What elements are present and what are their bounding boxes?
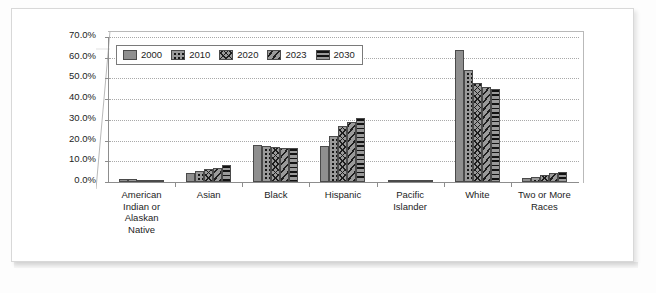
- x-axis-category-label-line: White: [445, 189, 510, 201]
- plot-right-border: [583, 31, 584, 183]
- legend-swatch-icon: [123, 50, 137, 60]
- bar[interactable]: [262, 146, 271, 182]
- bar[interactable]: [253, 145, 262, 182]
- x-axis-category-separator: [444, 182, 445, 187]
- x-axis-category-separator: [511, 182, 512, 187]
- legend-label: 2030: [334, 50, 355, 60]
- x-axis-category-label: Hispanic: [309, 189, 376, 235]
- bar[interactable]: [128, 179, 137, 182]
- legend-label: 2023: [285, 50, 306, 60]
- frame-shadow: [14, 262, 638, 268]
- x-axis-category-label-line: American: [109, 189, 174, 201]
- x-axis-category-label: AmericanIndian orAlaskanNative: [108, 189, 175, 235]
- legend-swatch-icon: [267, 50, 281, 60]
- x-axis-category-label-line: Races: [512, 201, 577, 213]
- bar-group: [377, 37, 444, 182]
- legend-item[interactable]: 2020: [219, 50, 258, 60]
- x-axis-category-label: Two or MoreRaces: [511, 189, 578, 235]
- y-axis-tick-label: 60.0%: [42, 51, 96, 61]
- page-root: 70.0%60.0%50.0%40.0%30.0%20.0%10.0%0.0% …: [0, 0, 656, 293]
- bar[interactable]: [406, 180, 415, 182]
- bar[interactable]: [356, 118, 365, 182]
- bar[interactable]: [320, 146, 329, 182]
- bar[interactable]: [464, 70, 473, 182]
- x-axis-category-separator: [309, 182, 310, 187]
- bar[interactable]: [397, 180, 406, 182]
- bar[interactable]: [280, 148, 289, 182]
- bar[interactable]: [119, 179, 128, 182]
- x-axis-category-label-line: Two or More: [512, 189, 577, 201]
- chart-frame: 70.0%60.0%50.0%40.0%30.0%20.0%10.0%0.0% …: [11, 8, 634, 262]
- bar[interactable]: [186, 173, 195, 182]
- x-axis-category-label-line: Hispanic: [310, 189, 375, 201]
- plot-top-border: [108, 31, 584, 32]
- y-axis-tick-label: 30.0%: [42, 113, 96, 123]
- x-axis-category-label-line: Pacific: [378, 189, 443, 201]
- x-axis-category-label-line: Indian or: [109, 201, 174, 213]
- y-axis-tick: [105, 182, 109, 183]
- y-axis-tick-label: 0.0%: [42, 175, 96, 185]
- bar[interactable]: [482, 87, 491, 182]
- bar[interactable]: [455, 50, 464, 182]
- x-axis-category-label-line: Native: [109, 224, 174, 236]
- bar[interactable]: [213, 168, 222, 183]
- y-axis-tick-label: 10.0%: [42, 155, 96, 165]
- bar[interactable]: [155, 180, 164, 182]
- x-axis-category-label: White: [444, 189, 511, 235]
- y-axis-labels: 70.0%60.0%50.0%40.0%30.0%20.0%10.0%0.0%: [42, 35, 96, 183]
- bar[interactable]: [522, 178, 531, 182]
- bar[interactable]: [540, 175, 549, 182]
- bar[interactable]: [146, 180, 155, 182]
- bar[interactable]: [415, 180, 424, 182]
- legend-label: 2020: [237, 50, 258, 60]
- y-axis-tick-label: 70.0%: [42, 30, 96, 40]
- bar[interactable]: [137, 180, 146, 182]
- bar[interactable]: [531, 177, 540, 182]
- bar[interactable]: [549, 173, 558, 182]
- legend-swatch-icon: [316, 50, 330, 60]
- bar[interactable]: [388, 180, 397, 182]
- bar[interactable]: [338, 126, 347, 182]
- bar[interactable]: [491, 89, 500, 182]
- legend-item[interactable]: 2010: [171, 50, 210, 60]
- x-axis-labels: AmericanIndian orAlaskanNativeAsianBlack…: [108, 189, 578, 235]
- x-axis-category-label-line: Alaskan: [109, 212, 174, 224]
- bar[interactable]: [473, 83, 482, 182]
- bar[interactable]: [271, 147, 280, 182]
- x-axis-category-separator: [175, 182, 176, 187]
- legend-label: 2010: [189, 50, 210, 60]
- legend-item[interactable]: 2023: [267, 50, 306, 60]
- legend-swatch-icon: [219, 50, 233, 60]
- x-axis-category-label-line: Islander: [378, 201, 443, 213]
- legend-swatch-icon: [171, 50, 185, 60]
- bar[interactable]: [558, 172, 567, 182]
- x-axis-category-label: PacificIslander: [377, 189, 444, 235]
- bar-chart: 70.0%60.0%50.0%40.0%30.0%20.0%10.0%0.0% …: [12, 9, 633, 261]
- x-axis-category-label-line: Black: [243, 189, 308, 201]
- y-axis-tick-label: 20.0%: [42, 134, 96, 144]
- legend-item[interactable]: 2000: [123, 50, 162, 60]
- x-axis-category-label-line: Asian: [176, 189, 241, 201]
- legend-label: 2000: [141, 50, 162, 60]
- y-axis-tick-label: 50.0%: [42, 72, 96, 82]
- bar[interactable]: [329, 136, 338, 182]
- x-axis-category-separator: [242, 182, 243, 187]
- y-axis-tick-label: 40.0%: [42, 92, 96, 102]
- bar[interactable]: [195, 171, 204, 182]
- bar[interactable]: [347, 122, 356, 182]
- bar[interactable]: [424, 180, 433, 182]
- chart-legend: 20002010202020232030: [116, 45, 363, 65]
- bar[interactable]: [289, 148, 298, 182]
- bar[interactable]: [222, 165, 231, 182]
- legend-item[interactable]: 2030: [316, 50, 355, 60]
- bar-group: [444, 37, 511, 182]
- bar-group: [511, 37, 578, 182]
- bar[interactable]: [204, 169, 213, 182]
- x-axis-category-label: Black: [242, 189, 309, 235]
- x-axis-category-separator: [377, 182, 378, 187]
- x-axis-category-label: Asian: [175, 189, 242, 235]
